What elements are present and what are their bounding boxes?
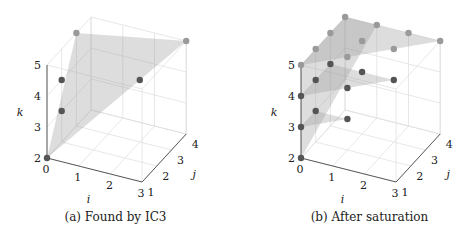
grid-line xyxy=(62,142,157,166)
i-tick-label: 1 xyxy=(328,171,335,184)
k-axis-label: k xyxy=(271,106,278,119)
k-tick-label: 4 xyxy=(288,90,295,103)
data-point xyxy=(59,108,65,114)
grid-line xyxy=(91,110,186,134)
data-point xyxy=(437,38,443,44)
k-tick-label: 5 xyxy=(34,59,41,72)
figure-canvas: 234501231234kij234501231234kij xyxy=(0,0,462,240)
i-tick-label: 2 xyxy=(106,179,113,192)
data-point xyxy=(298,124,304,130)
data-point xyxy=(344,85,350,91)
i-tick-label: 3 xyxy=(392,187,399,200)
j-tick-label: 3 xyxy=(431,154,438,167)
k-tick-label: 3 xyxy=(34,121,41,134)
caption-a: (a) Found by IC3 xyxy=(0,210,231,224)
k-tick-label: 2 xyxy=(288,152,295,165)
data-point xyxy=(391,77,397,83)
data-point xyxy=(298,155,304,161)
i-tick-label: 0 xyxy=(43,163,50,176)
i-axis-label: i xyxy=(87,193,91,206)
grid-line xyxy=(345,110,440,134)
data-point xyxy=(137,77,143,83)
data-point xyxy=(342,14,348,20)
grid-line xyxy=(76,126,171,150)
grid-line xyxy=(330,126,425,150)
data-point xyxy=(298,62,304,68)
j-tick-label: 2 xyxy=(416,170,423,183)
box-edge xyxy=(396,41,440,89)
k-axis-label: k xyxy=(17,106,24,119)
j-tick-label: 1 xyxy=(148,186,155,199)
grid-line xyxy=(316,142,411,166)
i-axis xyxy=(47,158,142,182)
k-tick-label: 2 xyxy=(34,152,41,165)
data-point xyxy=(344,54,350,60)
j-axis-label: j xyxy=(189,168,196,181)
data-point xyxy=(298,93,304,99)
data-point xyxy=(73,30,79,36)
j-tick-label: 1 xyxy=(402,186,409,199)
data-point xyxy=(313,46,319,52)
data-point xyxy=(59,77,65,83)
i-tick-label: 2 xyxy=(360,179,367,192)
data-point xyxy=(44,155,50,161)
i-axis xyxy=(301,158,396,182)
data-point xyxy=(327,30,333,36)
i-tick-label: 3 xyxy=(138,187,145,200)
data-point xyxy=(405,30,411,36)
data-point xyxy=(183,38,189,44)
j-tick-label: 3 xyxy=(177,154,184,167)
plane-surface xyxy=(47,33,186,158)
k-tick-label: 5 xyxy=(288,59,295,72)
plane-surface xyxy=(301,17,440,65)
grid-line xyxy=(333,118,377,166)
i-axis-label: i xyxy=(341,193,345,206)
data-point xyxy=(359,69,365,75)
j-tick-label: 4 xyxy=(446,138,453,151)
data-point xyxy=(313,108,319,114)
grid-line xyxy=(110,126,154,174)
grid-line xyxy=(364,126,408,174)
j-tick-label: 2 xyxy=(162,170,169,183)
j-tick-label: 4 xyxy=(192,138,199,151)
j-axis-label: j xyxy=(443,168,450,181)
data-point xyxy=(374,22,380,28)
i-tick-label: 1 xyxy=(74,171,81,184)
data-point xyxy=(327,61,333,67)
data-point xyxy=(313,77,319,83)
data-point xyxy=(391,46,397,52)
data-point xyxy=(344,116,350,122)
i-tick-label: 0 xyxy=(297,163,304,176)
k-tick-label: 3 xyxy=(288,121,295,134)
caption-b: (b) After saturation xyxy=(254,210,462,224)
k-tick-label: 4 xyxy=(34,90,41,103)
data-point xyxy=(359,38,365,44)
